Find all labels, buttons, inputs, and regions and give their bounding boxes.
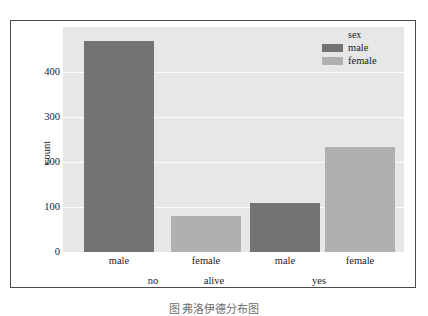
- legend-item-male[interactable]: male: [322, 41, 402, 54]
- bar-no-female[interactable]: [171, 216, 241, 252]
- y-tick-label-0: 0: [30, 247, 60, 257]
- x-tick-label-yes-male: male: [250, 255, 320, 266]
- legend-label-female: female: [348, 55, 377, 66]
- x-axis-ticks: male female male female: [63, 255, 404, 271]
- legend-item-female[interactable]: female: [322, 54, 402, 67]
- y-tick-label-300: 300: [30, 112, 60, 122]
- bar-no-male[interactable]: [84, 41, 154, 252]
- chart-figure: 400 300 200 100 0 count male female male…: [0, 0, 428, 316]
- legend-label-male: male: [348, 42, 368, 53]
- y-tick-label-400: 400: [30, 67, 60, 77]
- legend: sex male female: [322, 29, 402, 67]
- figure-caption: 图 弗洛伊德分布图: [0, 300, 428, 316]
- y-axis: 400 300 200 100 0 count: [22, 27, 60, 252]
- y-axis-label: count: [41, 123, 52, 183]
- legend-swatch-male: [322, 44, 343, 52]
- bar-yes-male[interactable]: [250, 203, 320, 252]
- legend-title: sex: [348, 29, 402, 41]
- x-tick-label-no-male: male: [84, 255, 154, 266]
- y-tick-label-100: 100: [30, 202, 60, 212]
- legend-swatch-female: [322, 57, 343, 65]
- x-tick-label-yes-female: female: [325, 255, 395, 266]
- x-axis-label: alive: [0, 275, 428, 286]
- x-tick-label-no-female: female: [171, 255, 241, 266]
- bar-yes-female[interactable]: [325, 147, 395, 252]
